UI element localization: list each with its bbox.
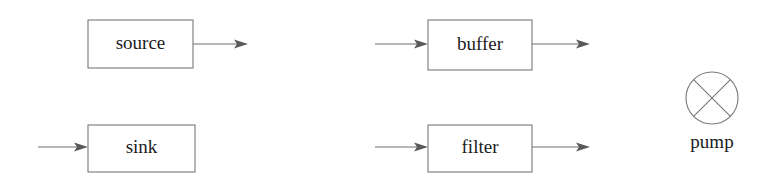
node-sink: sink [88, 125, 195, 172]
node-buffer: buffer [428, 20, 532, 70]
node-buffer-label: buffer [457, 33, 504, 54]
node-filter-label: filter [462, 136, 500, 157]
arrow-buffer-in [375, 40, 428, 49]
diagram-canvas: source sink buffer filter pump [0, 0, 780, 190]
node-pump-label: pump [690, 131, 733, 152]
arrow-source-out [193, 40, 248, 49]
node-source-label: source [116, 32, 166, 53]
arrow-filter-in [375, 143, 428, 152]
arrow-sink-in [38, 143, 88, 152]
node-sink-label: sink [126, 136, 158, 157]
arrow-filter-out [532, 143, 590, 152]
node-source: source [88, 20, 193, 68]
arrow-buffer-out [532, 40, 590, 49]
node-pump: pump [686, 72, 738, 152]
node-filter: filter [428, 125, 532, 172]
